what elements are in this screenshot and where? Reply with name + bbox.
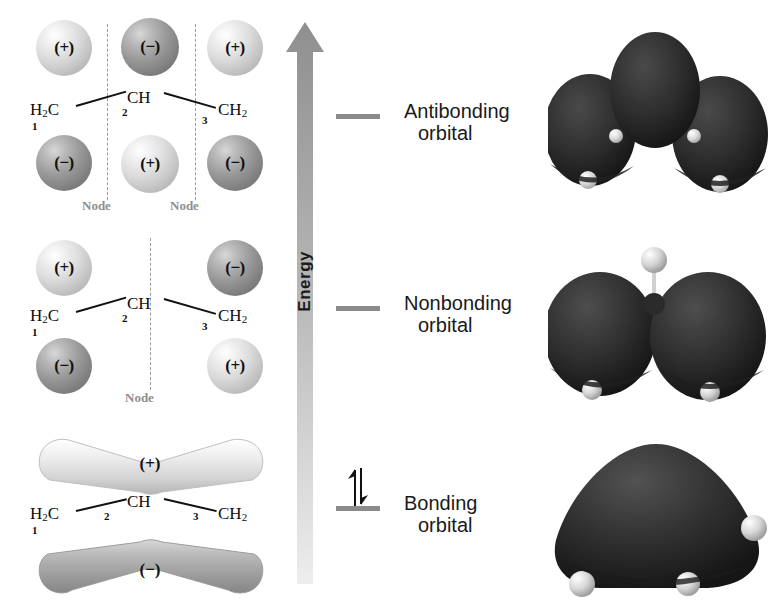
lobe-c1-bottom: (−): [36, 338, 92, 394]
lobe-sign: (−): [225, 258, 245, 278]
skeleton-center-group: CH: [127, 88, 151, 108]
level-bar: [336, 306, 380, 311]
carbon-number-2: 2: [104, 510, 110, 522]
bond-c2-c3: [164, 92, 216, 108]
orbital-render-nonbonding: [548, 238, 770, 420]
lobe-c1-top: (+): [36, 240, 92, 296]
lobe-c2-bottom: (+): [121, 135, 179, 193]
node-label-right: Node: [170, 198, 199, 214]
lobe-delocalized-top: (+): [32, 432, 268, 496]
carbon-number-3: 3: [202, 114, 208, 126]
lobe-c3-bottom: (+): [207, 338, 263, 394]
orbital-render-bonding: [548, 432, 770, 610]
skeleton-right-group: CH2: [218, 100, 247, 120]
lobe-sign: (−): [54, 356, 74, 376]
figure-canvas: (+) (−) (+) (−) (+) (−) Node Node H2C CH…: [0, 0, 770, 613]
carbon-number-2: 2: [122, 312, 128, 324]
level-label-line1: Nonbonding: [404, 292, 512, 314]
bond-c1-c2: [76, 297, 126, 313]
bond-c1-c2: [76, 91, 126, 107]
skeleton-right-group: CH2: [218, 504, 247, 524]
level-label: Bonding orbital: [404, 492, 477, 537]
skeleton-left-group: H2C: [30, 504, 59, 524]
node-label-center: Node: [125, 390, 154, 406]
carbon-number-1: 1: [32, 120, 38, 132]
skeleton-left-group: H2C: [30, 100, 59, 120]
carbon-number-3: 3: [202, 320, 208, 332]
node-line-right: [195, 24, 196, 200]
lobe-delocalized-bottom: (−): [32, 538, 268, 602]
level-label-line2: orbital: [404, 122, 510, 144]
lobe-sign: (+): [225, 38, 245, 58]
level-label: Antibonding orbital: [404, 100, 510, 145]
lobe-c1-bottom: (−): [36, 135, 92, 191]
lobe-sign: (−): [140, 37, 160, 57]
lobe-sign: (+): [54, 38, 74, 58]
level-label-line1: Bonding: [404, 492, 477, 514]
level-label-line2: orbital: [404, 314, 512, 336]
node-line-left: [107, 24, 108, 200]
level-label-line2: orbital: [404, 514, 477, 536]
lobe-c3-bottom: (−): [207, 135, 263, 191]
skeleton-center-group: CH: [127, 492, 151, 512]
orbital-diagram-antibonding: (+) (−) (+) (−) (+) (−) Node Node H2C CH…: [30, 18, 278, 223]
carbon-number-3: 3: [193, 510, 199, 522]
bond-c2-c3: [164, 498, 217, 512]
skeleton-right-group: CH2: [218, 306, 247, 326]
lobe-sign: (−): [54, 153, 74, 173]
orbital-diagram-bonding: (+) (−) H2C CH CH2 1 2 3: [30, 432, 278, 610]
carbon-number-1: 1: [32, 524, 38, 536]
node-label-left: Node: [82, 198, 111, 214]
lobe-sign: (−): [225, 153, 245, 173]
skeleton-center-group: CH: [127, 294, 151, 314]
lobe-sign: (−): [139, 560, 160, 580]
carbon-number-2: 2: [122, 106, 128, 118]
carbon-number-1: 1: [32, 326, 38, 338]
level-label-line1: Antibonding: [404, 100, 510, 122]
skeleton-left-group: H2C: [30, 306, 59, 326]
level-label: Nonbonding orbital: [404, 292, 512, 337]
bond-c1-c2: [76, 498, 127, 511]
lobe-sign: (+): [54, 258, 74, 278]
node-line-center: [150, 238, 151, 390]
orbital-render-antibonding: [548, 18, 770, 218]
level-bar: [336, 114, 380, 119]
orbital-diagram-nonbonding: (+) (−) (−) (+) Node H2C CH CH2 1 2 3: [30, 238, 278, 418]
lobe-sign: (+): [225, 356, 245, 376]
energy-axis-arrow: [285, 22, 325, 584]
lobe-c2-top: (−): [121, 18, 179, 76]
lobe-sign: (+): [140, 154, 160, 174]
electron-pair-arrows: [344, 466, 374, 508]
lobe-c3-top: (+): [207, 20, 263, 76]
lobe-sign: (+): [139, 454, 160, 474]
lobe-c3-top: (−): [207, 240, 263, 296]
lobe-c1-top: (+): [36, 20, 92, 76]
bond-c2-c3: [164, 298, 216, 314]
